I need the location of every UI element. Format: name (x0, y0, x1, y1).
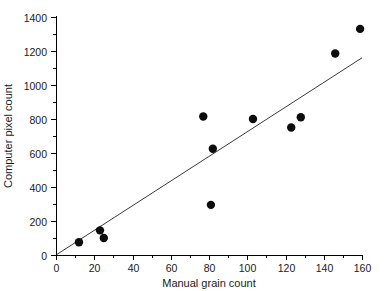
y-tick-label-200: 200 (29, 216, 47, 228)
data-point-7 (287, 123, 295, 131)
x-axis-title: Manual grain count (162, 277, 256, 289)
x-tick-label-140: 140 (316, 262, 334, 274)
x-tick-label-80: 80 (204, 262, 216, 274)
data-point-6 (249, 115, 257, 123)
x-tick-label-40: 40 (128, 262, 140, 274)
y-axis-title: Computer pixel count (2, 84, 14, 188)
data-point-8 (297, 113, 305, 121)
data-point-5 (209, 145, 217, 153)
data-point-3 (199, 112, 207, 120)
x-tick-label-120: 120 (278, 262, 296, 274)
y-tick-label-1200: 1200 (24, 46, 48, 58)
data-point-10 (356, 25, 364, 33)
y-tick-label-1400: 1400 (24, 12, 48, 24)
scatter-plot-figure: 0204060801001201401600200400600800100012… (0, 0, 387, 291)
y-tick-label-800: 800 (29, 114, 47, 126)
y-tick-label-1000: 1000 (24, 80, 48, 92)
data-point-1 (96, 226, 104, 234)
data-point-2 (100, 234, 108, 242)
data-point-9 (331, 49, 339, 57)
x-tick-label-100: 100 (239, 262, 257, 274)
y-tick-label-600: 600 (29, 148, 47, 160)
x-tick-label-20: 20 (89, 262, 101, 274)
x-tick-label-0: 0 (54, 262, 60, 274)
x-tick-label-160: 160 (354, 262, 372, 274)
y-tick-label-400: 400 (29, 182, 47, 194)
data-point-0 (75, 238, 83, 246)
x-tick-label-60: 60 (166, 262, 178, 274)
data-point-4 (207, 201, 215, 209)
y-tick-label-0: 0 (41, 250, 47, 262)
plot-background (0, 0, 387, 291)
